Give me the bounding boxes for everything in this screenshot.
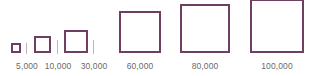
- legend-label-80000: 80,000: [192, 61, 219, 71]
- legend-tick: [26, 43, 27, 54]
- legend-square-5000: [11, 43, 21, 53]
- legend-tick: [57, 40, 58, 54]
- legend-tick: [93, 40, 94, 54]
- legend-square-10000: [34, 36, 51, 53]
- legend-label-60000: 60,000: [127, 61, 154, 71]
- legend-square-100000: [250, 0, 304, 53]
- legend-label-10000: 10,000: [45, 61, 72, 71]
- legend-square-80000: [180, 4, 230, 53]
- legend-square-60000: [119, 11, 161, 53]
- legend-label-5000: 5,000: [16, 61, 38, 71]
- legend-label-100000: 100,000: [261, 61, 292, 71]
- legend-label-30000: 30,000: [81, 61, 108, 71]
- size-legend: 5,000 10,000 30,000 60,000 80,000 100,00…: [0, 0, 317, 76]
- legend-square-30000: [64, 30, 88, 53]
